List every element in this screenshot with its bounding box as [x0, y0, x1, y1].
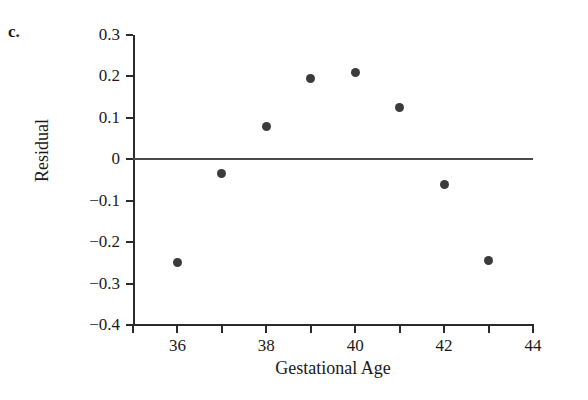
y-tick-label: −0.1 [89, 192, 120, 209]
y-tick-mark [126, 283, 133, 285]
y-tick-label: −0.3 [89, 275, 120, 292]
x-tick-mark [399, 326, 401, 333]
plot-area [133, 35, 533, 325]
residual-scatter-figure: c. Residual Gestational Age 0.30.20.10−0… [0, 0, 588, 400]
scatter-point [217, 169, 226, 178]
x-tick-mark [176, 326, 178, 333]
x-tick-label: 42 [424, 337, 464, 354]
y-tick-label: 0 [112, 150, 121, 167]
y-tick-mark [126, 241, 133, 243]
scatter-point [173, 258, 182, 267]
y-tick-label: 0.3 [99, 26, 120, 43]
y-tick-label: 0.2 [99, 67, 120, 84]
x-tick-mark [132, 326, 134, 333]
y-tick-mark [126, 200, 133, 202]
x-tick-mark [532, 326, 534, 333]
y-tick-mark [126, 158, 133, 160]
x-tick-mark [221, 326, 223, 333]
x-tick-mark [354, 326, 356, 333]
x-axis-title: Gestational Age [133, 358, 533, 379]
x-tick-mark [265, 326, 267, 333]
x-tick-mark [443, 326, 445, 333]
x-tick-label: 38 [246, 337, 286, 354]
x-tick-label: 44 [513, 337, 553, 354]
scatter-point [306, 74, 315, 83]
y-tick-label: 0.1 [99, 109, 120, 126]
scatter-point [440, 180, 449, 189]
y-tick-label: −0.4 [89, 316, 120, 333]
scatter-point [484, 256, 493, 265]
x-axis-line [133, 324, 534, 326]
x-tick-label: 40 [335, 337, 375, 354]
x-tick-mark [488, 326, 490, 333]
x-tick-label: 36 [157, 337, 197, 354]
scatter-point [395, 103, 404, 112]
y-tick-mark [126, 75, 133, 77]
x-tick-mark [310, 326, 312, 333]
scatter-point [262, 122, 271, 131]
y-tick-label: −0.2 [89, 233, 120, 250]
y-tick-mark [126, 34, 133, 36]
y-axis-line [133, 35, 135, 326]
panel-letter-label: c. [8, 22, 20, 42]
zero-reference-line [133, 158, 533, 160]
y-tick-mark [126, 117, 133, 119]
scatter-point [351, 68, 360, 77]
y-axis-title: Residual [32, 91, 53, 211]
